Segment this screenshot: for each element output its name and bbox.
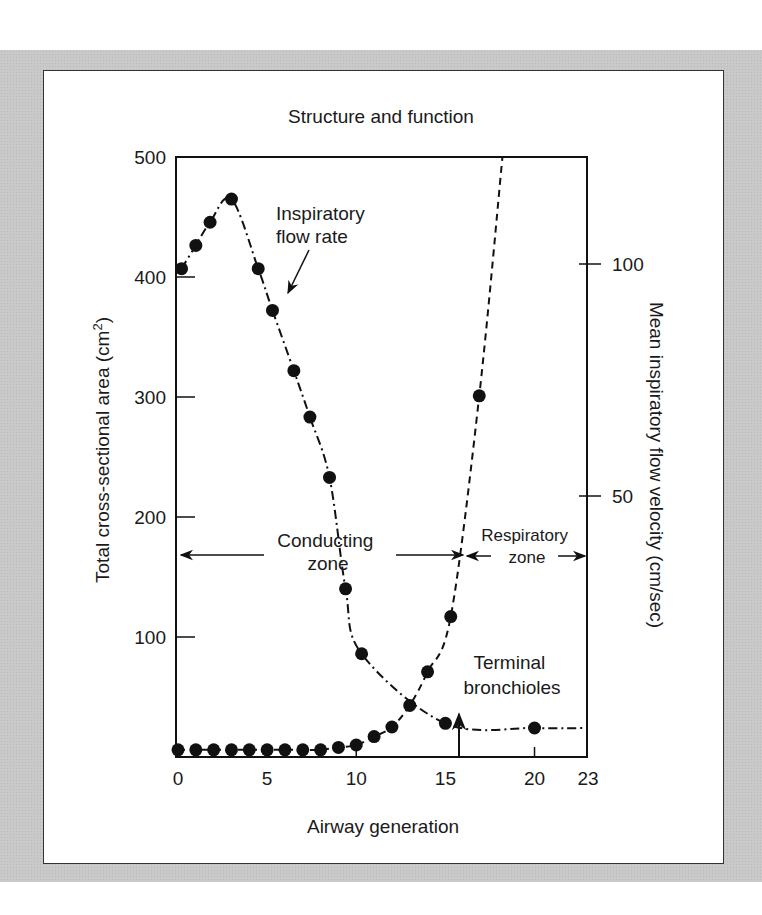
area-data-point (296, 743, 309, 756)
conducting-zone-line-2: zone (307, 553, 348, 574)
area-data-point (421, 665, 434, 678)
chart-title: Structure and function (288, 106, 474, 127)
flow-velocity-data-point (175, 262, 188, 275)
terminal-bronchioles-line-1: Terminal (473, 652, 545, 673)
area-data-point (385, 721, 398, 734)
area-data-point (207, 743, 220, 756)
area-data-point (278, 743, 291, 756)
left-y-axis-ticks: 100200300400500 (134, 147, 195, 648)
flow-velocity-data-point (266, 304, 279, 317)
x-tick-label: 15 (435, 768, 456, 789)
area-data-point (473, 389, 486, 402)
area-data-point (332, 741, 345, 754)
flow-velocity-data-point (303, 411, 316, 424)
conducting-zone-line-1: Conducting (277, 530, 373, 551)
x-axis-label: Airway generation (307, 816, 459, 837)
area-data-point (368, 730, 381, 743)
respiratory-zone-line-2: zone (509, 548, 546, 567)
right-y-axis-ticks: 50100 (579, 254, 644, 507)
area-data-point (261, 743, 274, 756)
x-tick-label: 10 (346, 768, 367, 789)
flow-velocity-data-point (252, 262, 265, 275)
flow-rate-label-line-2: flow rate (276, 226, 348, 247)
left-y-axis-label-main: Total cross-sectional area (cm (92, 331, 113, 583)
left-y-tick-label: 400 (134, 267, 166, 288)
respiratory-zone-line-1: Respiratory (481, 526, 568, 545)
x-tick-label: 5 (262, 768, 273, 789)
area-data-point (189, 743, 202, 756)
conducting-zone-label: Conducting zone (277, 530, 378, 574)
left-y-tick-label: 100 (134, 627, 166, 648)
flow-velocity-data-point (287, 364, 300, 377)
flow-velocity-data-point (528, 722, 541, 735)
left-y-tick-label: 200 (134, 507, 166, 528)
flow-velocity-data-point (225, 193, 238, 206)
flow-velocity-curve (182, 197, 588, 730)
right-y-tick-label: 100 (612, 254, 644, 275)
flow-velocity-data-point (439, 717, 452, 730)
left-y-axis-label-sup: 2 (90, 323, 105, 330)
right-y-tick-label: 50 (612, 486, 633, 507)
terminal-bronchioles-label: Terminal bronchioles (463, 652, 560, 698)
x-tick-label: 20 (524, 768, 545, 789)
flow-velocity-data-point (355, 647, 368, 660)
flow-rate-label-line-1: Inspiratory (276, 203, 365, 224)
area-data-point (314, 743, 327, 756)
area-data-point (172, 743, 185, 756)
right-y-axis-label: Mean inspiratory flow velocity (cm/sec) (646, 302, 667, 628)
area-data-point (243, 743, 256, 756)
left-y-tick-label: 300 (134, 387, 166, 408)
chart: Structure and function 0510152023 100200… (0, 0, 762, 915)
left-y-axis-label: Total cross-sectional area (cm2) (90, 317, 113, 583)
x-tick-label: 0 (173, 768, 184, 789)
area-data-point (444, 610, 457, 623)
flow-velocity-data-point (204, 216, 217, 229)
area-data-point (225, 743, 238, 756)
flow-velocity-data-point (339, 582, 352, 595)
flow-velocity-data-point (189, 239, 202, 252)
flow-velocity-data-point (323, 471, 336, 484)
respiratory-zone-label: Respiratory zone (481, 526, 573, 567)
flow-rate-pointer-arrow (288, 250, 309, 293)
left-y-tick-label: 500 (134, 147, 166, 168)
flow-rate-label: Inspiratory flow rate (276, 203, 370, 247)
left-y-axis-label-end: ) (92, 317, 113, 323)
terminal-bronchioles-line-2: bronchioles (463, 677, 560, 698)
area-data-point (350, 739, 363, 752)
x-tick-label: 23 (577, 768, 598, 789)
